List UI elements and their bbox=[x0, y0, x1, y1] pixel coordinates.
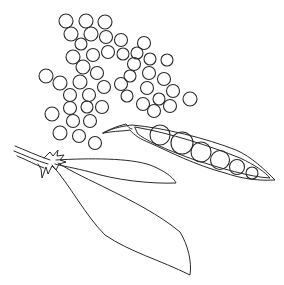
pea-illustration bbox=[0, 0, 284, 285]
background bbox=[0, 0, 284, 285]
